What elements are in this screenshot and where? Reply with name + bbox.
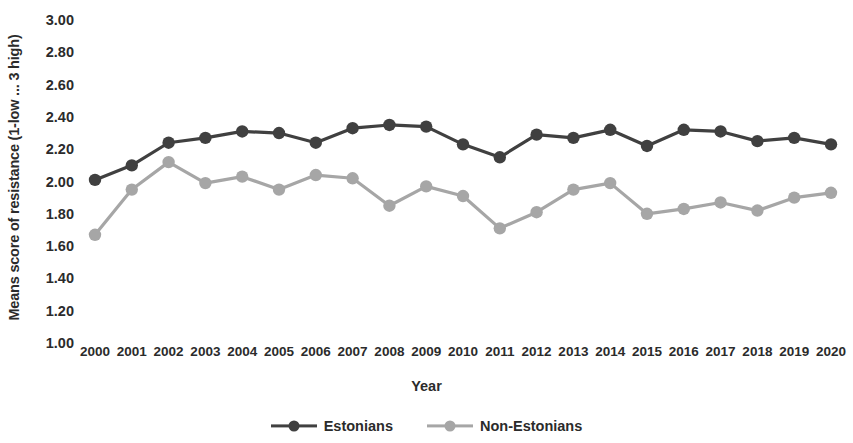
data-point[interactable] <box>530 206 542 218</box>
legend-dot <box>288 421 299 432</box>
data-point[interactable] <box>751 204 763 216</box>
y-axis-tick: 2.00 <box>26 174 74 190</box>
data-point[interactable] <box>273 183 285 195</box>
series-estonians <box>89 119 837 186</box>
legend-dot <box>444 421 455 432</box>
legend-item[interactable]: Non-Estonians <box>427 418 582 434</box>
x-axis-tick: 2013 <box>558 344 588 359</box>
data-point[interactable] <box>383 119 395 131</box>
data-point[interactable] <box>641 140 653 152</box>
y-axis-tick: 2.40 <box>26 109 74 125</box>
legend-label: Non-Estonians <box>480 418 582 434</box>
data-point[interactable] <box>714 125 726 137</box>
legend-marker-icon <box>427 419 473 433</box>
y-axis-title: Means score of resistance (1-low ... 3 h… <box>2 5 26 350</box>
data-point[interactable] <box>751 135 763 147</box>
x-axis-tick: 2000 <box>80 344 110 359</box>
x-axis-tick: 2017 <box>706 344 736 359</box>
data-point[interactable] <box>346 172 358 184</box>
x-axis-tick: 2020 <box>816 344 846 359</box>
x-axis-tick: 2006 <box>301 344 331 359</box>
y-axis-tick: 1.80 <box>26 206 74 222</box>
data-point[interactable] <box>199 177 211 189</box>
data-point[interactable] <box>494 222 506 234</box>
data-point[interactable] <box>236 125 248 137</box>
x-axis-tick: 2007 <box>338 344 368 359</box>
data-point[interactable] <box>199 132 211 144</box>
y-axis-tick: 1.20 <box>26 303 74 319</box>
data-point[interactable] <box>126 183 138 195</box>
data-point[interactable] <box>788 132 800 144</box>
data-point[interactable] <box>273 127 285 139</box>
legend-marker-icon <box>271 419 317 433</box>
data-point[interactable] <box>825 187 837 199</box>
data-point[interactable] <box>162 137 174 149</box>
x-axis-tick: 2002 <box>154 344 184 359</box>
x-axis-tick: 2010 <box>448 344 478 359</box>
data-point[interactable] <box>788 191 800 203</box>
data-point[interactable] <box>383 200 395 212</box>
y-axis-tick-labels: 3.002.802.602.402.202.001.801.601.401.20… <box>26 0 74 360</box>
data-point[interactable] <box>678 124 690 136</box>
data-point[interactable] <box>604 124 616 136</box>
x-axis-tick: 2009 <box>411 344 441 359</box>
data-point[interactable] <box>567 183 579 195</box>
data-point[interactable] <box>825 138 837 150</box>
y-axis-tick: 2.20 <box>26 141 74 157</box>
data-point[interactable] <box>420 180 432 192</box>
data-point[interactable] <box>567 132 579 144</box>
legend-label: Estonians <box>324 418 393 434</box>
x-axis-tick-labels: 2000200120022003200420052006200720082009… <box>0 344 853 366</box>
x-axis-tick: 2001 <box>117 344 147 359</box>
x-axis-tick: 2012 <box>522 344 552 359</box>
data-point[interactable] <box>89 229 101 241</box>
data-point[interactable] <box>714 196 726 208</box>
data-point[interactable] <box>604 177 616 189</box>
x-axis-tick: 2004 <box>227 344 257 359</box>
data-point[interactable] <box>162 156 174 168</box>
data-point[interactable] <box>457 138 469 150</box>
x-axis-tick: 2003 <box>190 344 220 359</box>
data-point[interactable] <box>494 151 506 163</box>
data-point[interactable] <box>678 203 690 215</box>
data-point[interactable] <box>530 128 542 140</box>
series-canvas <box>78 10 848 346</box>
line-chart: Means score of resistance (1-low ... 3 h… <box>0 0 853 443</box>
data-point[interactable] <box>420 120 432 132</box>
legend-item[interactable]: Estonians <box>271 418 393 434</box>
y-axis-tick: 2.80 <box>26 44 74 60</box>
data-point[interactable] <box>89 174 101 186</box>
x-axis-tick: 2011 <box>485 344 514 359</box>
y-axis-tick: 2.60 <box>26 77 74 93</box>
y-axis-tick: 1.40 <box>26 270 74 286</box>
x-axis-tick: 2019 <box>779 344 809 359</box>
x-axis-tick: 2015 <box>632 344 662 359</box>
data-point[interactable] <box>236 170 248 182</box>
plot-area <box>78 10 848 346</box>
x-axis-tick: 2005 <box>264 344 294 359</box>
series-non-estonians <box>89 156 837 241</box>
data-point[interactable] <box>457 190 469 202</box>
data-point[interactable] <box>126 159 138 171</box>
data-point[interactable] <box>310 137 322 149</box>
y-axis-tick: 1.60 <box>26 238 74 254</box>
x-axis-tick: 2016 <box>669 344 699 359</box>
x-axis-tick: 2018 <box>742 344 772 359</box>
data-point[interactable] <box>346 122 358 134</box>
x-axis-title: Year <box>0 378 853 394</box>
data-point[interactable] <box>641 208 653 220</box>
x-axis-tick: 2014 <box>595 344 625 359</box>
x-axis-tick: 2008 <box>374 344 404 359</box>
chart-legend: EstoniansNon-Estonians <box>0 418 853 434</box>
data-point[interactable] <box>310 169 322 181</box>
y-axis-tick: 3.00 <box>26 12 74 28</box>
